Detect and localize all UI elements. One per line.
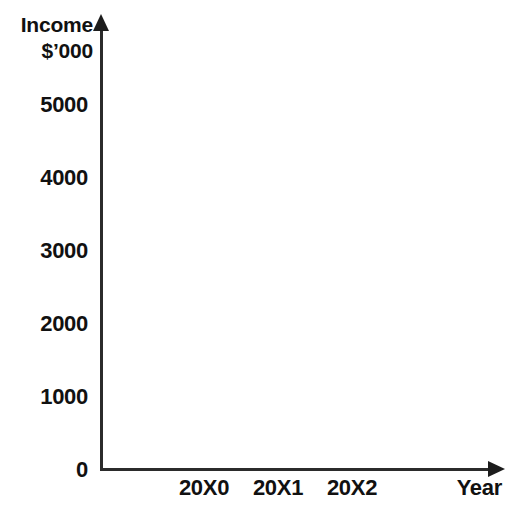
y-axis-title-line2: $’000 xyxy=(0,38,93,64)
y-axis-title-line1: Income xyxy=(21,13,93,36)
plot-area xyxy=(103,28,492,468)
y-tick-label: 2000 xyxy=(0,313,88,335)
x-axis-title: Year xyxy=(430,477,502,499)
income-year-blank-chart: Income $’000 5000 4000 3000 2000 1000 0 … xyxy=(0,0,510,506)
y-axis-title: Income $’000 xyxy=(0,12,93,64)
y-tick-label: 3000 xyxy=(0,240,88,262)
y-tick-label: 1000 xyxy=(0,386,88,408)
x-axis-line xyxy=(100,468,492,471)
y-tick-label: 5000 xyxy=(0,94,88,116)
x-tick-label: 20X2 xyxy=(307,477,397,499)
y-tick-label: 0 xyxy=(0,459,88,481)
y-tick-label: 4000 xyxy=(0,167,88,189)
